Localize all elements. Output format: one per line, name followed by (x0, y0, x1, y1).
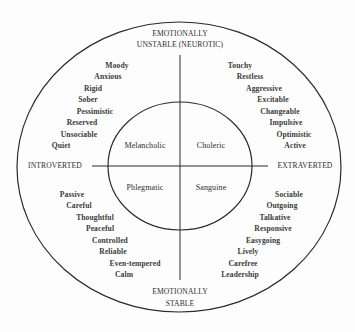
temperament-choleric: Choleric (197, 141, 225, 150)
trait-top-left: Anxious (94, 72, 121, 81)
trait-top-right: Aggressive (246, 84, 282, 93)
trait-bottom-right: Talkative (260, 213, 291, 222)
trait-bottom-left: Peaceful (86, 224, 114, 233)
trait-bottom-left: Controlled (92, 236, 128, 245)
trait-top-left: Moody (105, 61, 128, 70)
trait-bottom-right: Lively (238, 247, 259, 256)
trait-bottom-left: Careful (66, 201, 91, 210)
trait-bottom-left: Thoughtful (76, 213, 114, 222)
trait-bottom-left: Calm (115, 270, 133, 279)
trait-top-left: Sober (78, 95, 97, 104)
trait-top-left: Quiet (52, 141, 71, 150)
trait-bottom-left: Passive (60, 190, 84, 199)
axis-label-left: INTROVERTED (28, 161, 82, 170)
trait-bottom-left: Reliable (99, 247, 126, 256)
axis-label-right: EXTRAVERTED (278, 161, 333, 170)
trait-top-right: Changeable (260, 107, 299, 116)
trait-bottom-right: Carefree (228, 259, 257, 268)
trait-top-right: Active (284, 141, 305, 150)
trait-top-right: Impulsive (270, 118, 303, 127)
temperament-phlegmatic: Phlegmatic (127, 183, 164, 192)
temperament-melancholic: Melancholic (124, 141, 165, 150)
trait-bottom-right: Easygoing (246, 236, 280, 245)
trait-bottom-right: Leadership (221, 270, 259, 279)
trait-bottom-left: Even-tempered (110, 259, 161, 268)
trait-top-right: Excitable (257, 95, 288, 104)
trait-top-left: Unsociable (61, 130, 97, 139)
temperament-sanguine: Sanguine (196, 183, 227, 192)
trait-top-left: Rigid (84, 84, 102, 93)
trait-top-left: Pessimistic (77, 107, 114, 116)
trait-top-left: Reserved (67, 118, 98, 127)
axis-label-top-line1: EMOTIONALLY (152, 29, 208, 38)
trait-bottom-right: Outgoing (266, 201, 297, 210)
axis-label-bottom-line2: STABLE (166, 299, 195, 308)
axis-label-bottom-line1: EMOTIONALLY (152, 287, 208, 296)
trait-top-right: Restless (237, 72, 264, 81)
trait-top-right: Touchy (228, 61, 252, 70)
axis-label-top-line2: UNSTABLE (NEUROTIC) (137, 40, 223, 49)
personality-diagram: EMOTIONALLY UNSTABLE (NEUROTIC) EMOTIONA… (0, 0, 355, 332)
trait-bottom-right: Responsive (254, 224, 291, 233)
trait-bottom-right: Sociable (275, 190, 303, 199)
trait-top-right: Optimistic (276, 130, 311, 139)
